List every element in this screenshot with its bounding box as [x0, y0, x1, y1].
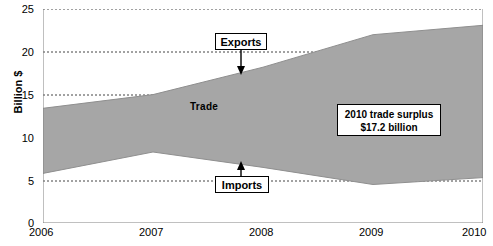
imports-callout-box: Imports	[215, 176, 269, 193]
x-tick-label-2006: 2006	[29, 226, 53, 238]
y-tick-label-5: 5	[12, 176, 34, 187]
y-tick-label-10: 10	[12, 133, 34, 144]
y-axis-tick-labels: 25 20 15 10 5 0	[10, 0, 34, 246]
surplus-callout-line1: 2010 trade surplus	[338, 108, 440, 121]
x-tick-label-2007: 2007	[139, 226, 163, 238]
x-tick-label-2008: 2008	[249, 226, 273, 238]
exports-callout-box: Exports	[215, 33, 267, 50]
y-tick-label-15: 15	[12, 90, 34, 101]
y-tick-label-20: 20	[12, 47, 34, 58]
trade-area-chart: Billion $ 25 20 15 10 5 0 2006 2007 2008…	[0, 0, 493, 246]
surplus-callout-box: 2010 trade surplus $17.2 billion	[337, 104, 441, 136]
surplus-callout-line2: $17.2 billion	[338, 121, 440, 134]
x-axis-tick-labels: 2006 2007 2008 2009 2010	[0, 226, 493, 246]
x-tick-label-2009: 2009	[359, 226, 383, 238]
x-tick-label-2010: 2010	[462, 226, 486, 238]
exports-callout-arrow	[237, 50, 245, 75]
y-tick-label-25: 25	[12, 4, 34, 15]
trade-band-label: Trade	[190, 101, 218, 112]
